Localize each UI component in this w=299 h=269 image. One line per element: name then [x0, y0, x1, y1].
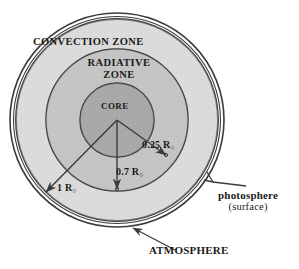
radiative-zone-label-line1: RADIATIVE	[88, 57, 151, 68]
radius-value-1: 1 R	[57, 182, 72, 193]
radius-label-radiative: 0.7 R○	[116, 166, 143, 179]
radiative-zone-label-line2: ZONE	[103, 69, 134, 80]
photosphere-leader-line	[213, 182, 246, 186]
photosphere-callout-line1: photosphere	[218, 189, 278, 201]
radius-label-solar: 1 R○	[57, 182, 77, 195]
radius-value-0.7: 0.7 R	[116, 166, 139, 177]
radiative-zone-label: RADIATIVE ZONE	[80, 57, 158, 80]
sun-structure-diagram: CONVECTION ZONE RADIATIVE ZONE CORE 0.25…	[0, 0, 299, 269]
convection-zone-label: CONVECTION ZONE	[33, 36, 144, 47]
solar-subscript-1: ○	[72, 187, 76, 195]
photosphere-callout-line2: (surface)	[218, 201, 278, 213]
solar-subscript-0.7: ○	[139, 171, 143, 179]
atmosphere-callout-label: ATMOSPHERE	[149, 244, 228, 256]
solar-subscript-0.25: ○	[170, 144, 174, 152]
photosphere-callout-label: photosphere (surface)	[218, 189, 278, 213]
radius-label-core: 0.25 R○	[142, 139, 175, 152]
core-label: CORE	[101, 101, 129, 111]
radius-value-0.25: 0.25 R	[142, 139, 170, 150]
